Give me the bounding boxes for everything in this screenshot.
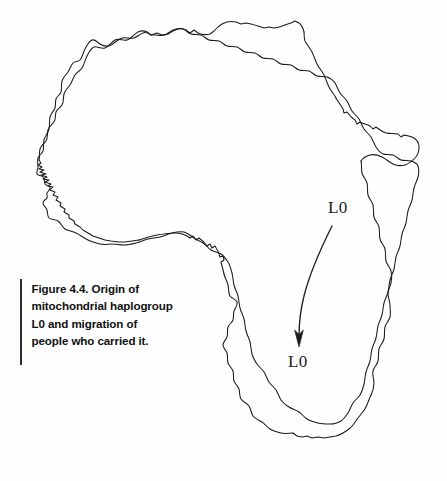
southwest-coast [223,274,293,433]
gulf-of-guinea-coast [139,233,224,274]
caption-vertical-rule [20,279,22,365]
horn-of-africa-coast [336,98,419,166]
northwest-coast-detail [39,31,151,160]
africa-map [0,0,447,481]
west-bulge-coast-detail [38,160,139,242]
migration-arrow-shaft [299,226,332,336]
east-coast [361,161,392,395]
figure-caption-text: Figure 4.4. Origin of mitochondrial hapl… [32,279,173,365]
mediterranean-coast [151,21,304,35]
map-label-origin: L0 [328,198,347,218]
map-label-destination: L0 [288,352,307,372]
figure-container: L0 L0 Figure 4.4. Origin of mitochondria… [0,0,447,481]
figure-caption-block: Figure 4.4. Origin of mitochondrial hapl… [20,279,173,365]
red-sea-coast [304,32,336,98]
